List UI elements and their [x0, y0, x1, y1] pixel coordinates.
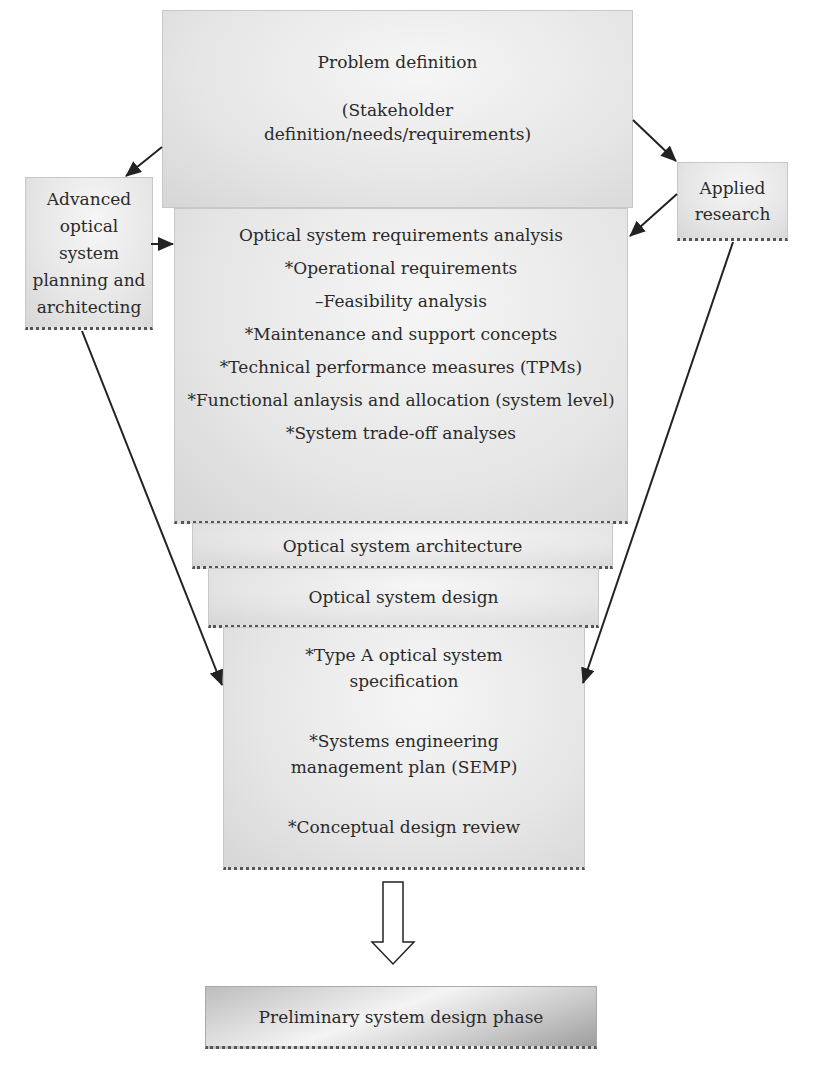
output-line: *Systems engineering — [224, 728, 584, 754]
output-line: management plan (SEMP) — [224, 754, 584, 780]
requirement-item: *System trade-off analyses — [175, 417, 627, 450]
advanced-planning-label: Advanced optical system planning and arc… — [26, 186, 152, 321]
output-item-spec: *Type A optical system specification — [224, 642, 584, 694]
hollow-down-arrow-icon — [372, 882, 414, 964]
applied-research-box: Applied research — [677, 162, 788, 241]
requirement-item: *Technical performance measures (TPMs) — [175, 351, 627, 384]
architecture-box: Optical system architecture — [192, 523, 613, 569]
advanced-planning-line: planning and — [26, 267, 152, 294]
requirement-item: *Maintenance and support concepts — [175, 318, 627, 351]
requirement-item: –Feasibility analysis — [175, 285, 627, 318]
problem-definition-subtitle-1: (Stakeholder — [163, 99, 632, 121]
advanced-planning-line: optical — [26, 213, 152, 240]
advanced-planning-box: Advanced optical system planning and arc… — [25, 177, 153, 330]
problem-definition-subtitle-2: definition/needs/requirements) — [163, 123, 632, 145]
requirement-item: *Functional anlaysis and allocation (sys… — [175, 384, 627, 417]
applied-research-line: Applied — [678, 175, 787, 201]
problem-definition-box: Problem definition (Stakeholder definiti… — [162, 10, 633, 208]
arrow-research-to-requirements — [630, 194, 677, 236]
output-item-review: *Conceptual design review — [224, 814, 584, 840]
applied-research-label: Applied research — [678, 175, 787, 227]
preliminary-design-phase-box: Preliminary system design phase — [205, 986, 597, 1049]
problem-definition-title: Problem definition — [163, 51, 632, 73]
output-line: specification — [224, 668, 584, 694]
requirements-title: Optical system requirements analysis — [175, 219, 627, 252]
design-label: Optical system design — [209, 586, 598, 608]
applied-research-line: research — [678, 201, 787, 227]
arrow-problem-to-research — [633, 120, 676, 161]
design-box: Optical system design — [208, 568, 599, 628]
advanced-planning-line: architecting — [26, 294, 152, 321]
advanced-planning-line: Advanced — [26, 186, 152, 213]
preliminary-design-phase-label: Preliminary system design phase — [206, 1006, 596, 1028]
output-line: *Type A optical system — [224, 642, 584, 668]
output-line: *Conceptual design review — [224, 814, 584, 840]
requirements-list: Optical system requirements analysis *Op… — [175, 219, 627, 450]
output-item-semp: *Systems engineering management plan (SE… — [224, 728, 584, 780]
architecture-label: Optical system architecture — [193, 535, 612, 557]
outputs-box: *Type A optical system specification *Sy… — [223, 627, 585, 870]
advanced-planning-line: system — [26, 240, 152, 267]
requirements-analysis-box: Optical system requirements analysis *Op… — [174, 208, 628, 524]
arrow-problem-to-planning — [126, 147, 162, 176]
requirement-item: *Operational requirements — [175, 252, 627, 285]
